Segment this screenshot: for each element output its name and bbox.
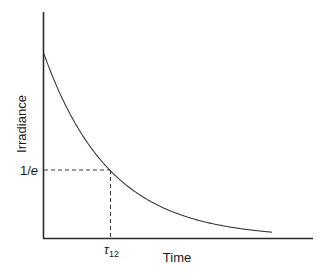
decay-curve [44,54,272,232]
x-axis-label: Time [163,250,191,265]
tau12-label: τ12 [104,242,119,259]
y-axis-label: Irradiance [14,95,29,153]
chart: Irradiance 1/e τ12 Time [0,0,329,274]
one-over-e-label: 1/e [20,163,38,178]
